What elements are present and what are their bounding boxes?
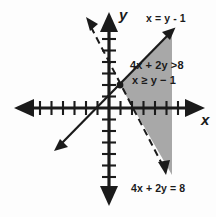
intersection-point-dot bbox=[117, 82, 124, 89]
y-axis-down-arrow-icon bbox=[100, 186, 118, 206]
solid-line-lower-left-arrow-icon bbox=[54, 139, 68, 151]
y-axis-label: y bbox=[119, 7, 127, 22]
shaded-feasible-region bbox=[120, 31, 172, 175]
y-axis-up-arrow-icon bbox=[100, 12, 118, 32]
inequality-label-1: 4x + 2y >8 bbox=[130, 60, 184, 71]
dashed-line-equation-label: 4x + 2y = 8 bbox=[131, 183, 185, 194]
dashed-line-upper-left-arrow-icon bbox=[86, 17, 98, 31]
x-axis-left-arrow-icon bbox=[14, 99, 34, 117]
x-axis-label: x bbox=[201, 112, 209, 127]
inequality-label-2: x ≥ y − 1 bbox=[132, 75, 176, 86]
graph-figure: y x x = y - 1 4x + 2y = 8 4x + 2y >8 x ≥… bbox=[0, 0, 216, 217]
solid-line-equation-label: x = y - 1 bbox=[146, 13, 186, 24]
